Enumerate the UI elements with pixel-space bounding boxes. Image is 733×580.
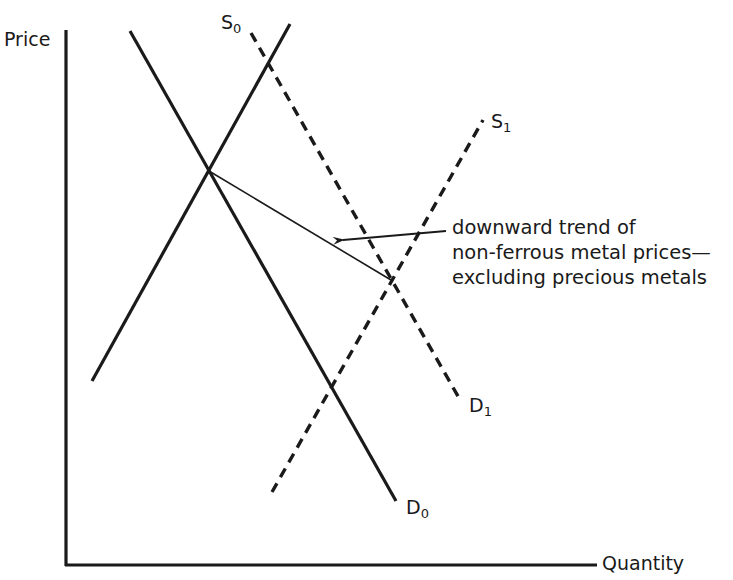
- label-s1-main: S: [491, 110, 503, 132]
- label-d0-main: D: [406, 496, 421, 518]
- y-axis-label: Price: [4, 30, 50, 49]
- label-d0-sub: 0: [421, 506, 429, 521]
- label-s0-sub: 0: [233, 21, 241, 36]
- annotation-line-3: excluding precious metals: [452, 265, 711, 290]
- supply-curve-s1: [272, 120, 483, 492]
- label-d0: D0: [406, 498, 429, 520]
- annotation-line-2: non-ferrous metal prices—: [452, 240, 711, 265]
- x-axis-label: Quantity: [602, 554, 684, 573]
- annotation-line-1: downward trend of: [452, 215, 711, 240]
- annotation-arrow-icon: [343, 231, 446, 240]
- label-s1-sub: 1: [503, 120, 511, 135]
- supply-demand-diagram: [0, 0, 733, 580]
- label-d1-main: D: [469, 394, 484, 416]
- demand-curve-d0: [130, 31, 396, 501]
- label-d1-sub: 1: [484, 404, 492, 419]
- label-s1: S1: [491, 112, 511, 134]
- label-d1: D1: [469, 396, 492, 418]
- label-s0: S0: [221, 13, 241, 35]
- price-trend-line: [209, 171, 391, 280]
- trend-annotation: downward trend of non-ferrous metal pric…: [452, 215, 711, 290]
- label-s0-main: S: [221, 11, 233, 33]
